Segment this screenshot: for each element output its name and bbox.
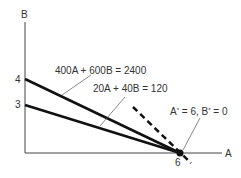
constraint-label-1: 400A + 600B = 2400	[55, 65, 147, 76]
diagram-canvas: B A 4 3 6 400A + 600B = 2400 20A + 40B =…	[0, 0, 241, 178]
y-tick-3: 3	[15, 99, 21, 110]
x-axis-label: A	[225, 148, 232, 159]
x-tick-6: 6	[175, 157, 181, 168]
constraint-label-2: 20A + 40B = 120	[93, 83, 168, 94]
leader-line-1	[62, 75, 91, 95]
leader-line-optimum	[183, 118, 200, 150]
y-tick-4: 4	[15, 74, 21, 85]
y-axis-label: B	[21, 9, 28, 20]
optimum-point	[177, 150, 184, 157]
optimum-label: A* = 6, B* = 0	[170, 106, 228, 117]
